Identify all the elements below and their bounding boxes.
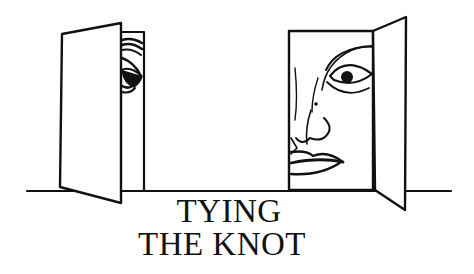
- left-door-panel: [60, 23, 121, 203]
- right-doorway: [289, 31, 373, 190]
- caption-line-2: THE KNOT: [0, 228, 459, 261]
- caption-line-1: TYING: [0, 195, 466, 228]
- illustration: TYING THE KNOT: [0, 0, 474, 274]
- left-peeking-eye-icon: [122, 39, 142, 93]
- right-door-panel: [373, 17, 406, 210]
